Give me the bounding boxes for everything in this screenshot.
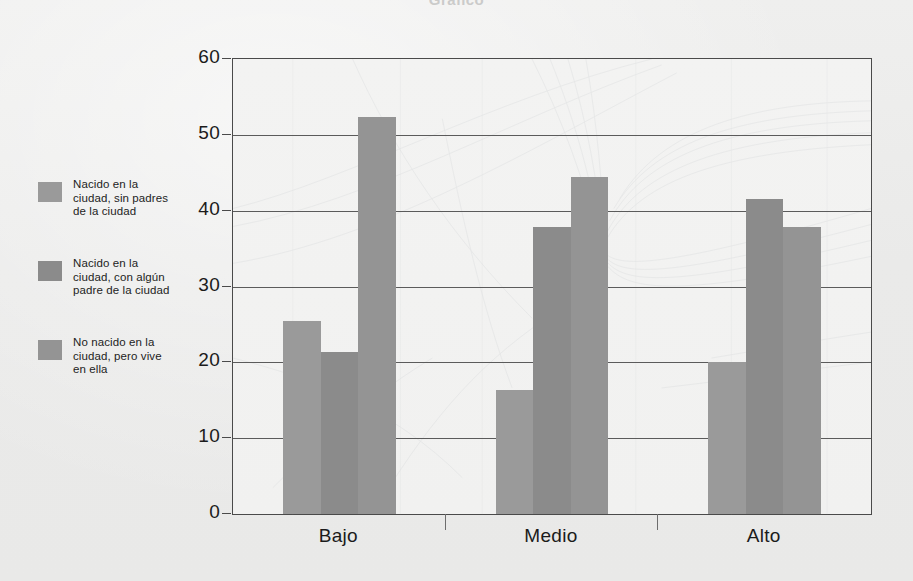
y-axis-tick-mark xyxy=(222,134,231,135)
bar-bajo-series-1 xyxy=(283,321,321,514)
bar-bajo-series-3 xyxy=(358,117,396,514)
bar-alto-series-3 xyxy=(783,227,821,514)
y-axis-tick-label: 50 xyxy=(176,122,220,144)
bar-alto-series-2 xyxy=(746,199,784,514)
x-axis-label-bajo: Bajo xyxy=(232,525,445,547)
legend-swatch-3 xyxy=(38,340,62,360)
gridline-50 xyxy=(233,135,871,136)
x-axis-group-separator xyxy=(657,514,658,530)
y-axis-tick-label: 0 xyxy=(176,501,220,523)
y-axis-tick-label: 40 xyxy=(176,198,220,220)
y-axis-tick-label: 20 xyxy=(176,349,220,371)
chart-figure: Gráfico Nacido en la ciudad, sin padres … xyxy=(0,0,913,581)
x-axis-label-medio: Medio xyxy=(445,525,658,547)
x-axis-group-separator xyxy=(445,514,446,530)
y-axis-tick-mark xyxy=(222,58,231,59)
y-axis-tick-label: 30 xyxy=(176,274,220,296)
bar-medio-series-1 xyxy=(496,390,534,514)
y-axis-tick-mark xyxy=(222,513,231,514)
y-axis-tick-label: 10 xyxy=(176,425,220,447)
figure-title-faint: Gráfico xyxy=(0,0,913,8)
bar-medio-series-3 xyxy=(571,177,609,514)
y-axis-tick-label: 60 xyxy=(176,46,220,68)
y-axis-tick-mark xyxy=(222,210,231,211)
bar-alto-series-1 xyxy=(708,362,746,514)
legend-swatch-1 xyxy=(38,182,62,202)
y-axis-tick-mark xyxy=(222,437,231,438)
bar-bajo-series-2 xyxy=(321,352,359,514)
plot-area xyxy=(232,58,872,515)
y-axis-tick-mark xyxy=(222,361,231,362)
legend-swatch-2 xyxy=(38,261,62,281)
bar-medio-series-2 xyxy=(533,227,571,514)
y-axis-tick-mark xyxy=(222,286,231,287)
x-axis-label-alto: Alto xyxy=(657,525,870,547)
